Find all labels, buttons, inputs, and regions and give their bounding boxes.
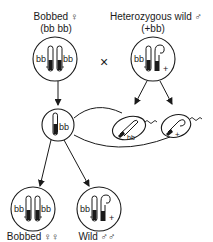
allele-label: bb bbox=[134, 54, 144, 64]
offspring-female-cell: bb bb bbox=[11, 187, 55, 231]
allele-label: bb bbox=[36, 54, 46, 64]
male-parent-cell: bb + bbox=[131, 37, 175, 81]
offspring-male-cell: bb + bbox=[77, 187, 121, 231]
allele-label: bb bbox=[41, 204, 51, 214]
arrow-to-bobbed-offspring bbox=[40, 140, 51, 186]
sperm-cell-plus: + bbox=[158, 111, 202, 141]
allele-label: + bbox=[109, 213, 114, 223]
sperm-cell-bb: bb bbox=[109, 112, 157, 143]
allele-label: + bbox=[163, 64, 168, 74]
sperm-tail bbox=[190, 118, 202, 121]
female-parent-cell: bb bb bbox=[33, 37, 77, 81]
arrow-to-wild-offspring bbox=[64, 140, 89, 186]
allele-label: bb bbox=[80, 204, 90, 214]
fertilization-curve-bb bbox=[74, 108, 122, 118]
arrow-male-to-sperm-plus bbox=[160, 81, 172, 104]
genetic-cross-diagram: bb bb bb + bb bb bbox=[0, 0, 213, 242]
arrow-male-to-sperm-bb bbox=[135, 81, 147, 104]
chromosome-x-icon bbox=[144, 46, 151, 71]
allele-label: + bbox=[175, 130, 180, 139]
fertilization-curve-plus bbox=[74, 135, 170, 147]
allele-label: bb bbox=[63, 54, 73, 64]
chromosome-x-icon bbox=[46, 46, 64, 71]
sperm-tail bbox=[145, 121, 157, 124]
allele-label: bb bbox=[127, 134, 135, 141]
allele-label: bb bbox=[14, 204, 24, 214]
egg-cell: bb bbox=[42, 109, 74, 141]
allele-label: bb bbox=[59, 122, 69, 132]
